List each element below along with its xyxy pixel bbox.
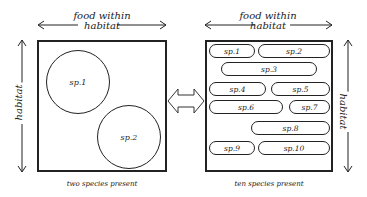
right-habitat-box: sp.1 sp.2 sp.3 sp.4 sp.5 sp.6 sp.7 sp.8 …: [205, 40, 333, 172]
right-habitat-label: habitat: [338, 91, 349, 131]
species-pill: sp.2: [258, 44, 330, 58]
double-arrow-icon: [168, 89, 204, 113]
species-pill: sp.10: [258, 141, 330, 155]
right-food-label-line2: habitat: [228, 20, 308, 31]
species-circle: sp.2: [97, 105, 161, 169]
species-pill: sp.9: [209, 141, 255, 155]
left-caption: two species present: [37, 180, 167, 188]
species-pill: sp.1: [209, 44, 255, 58]
left-habitat-box: sp.1 sp.2: [37, 40, 167, 172]
species-pill: sp.7: [289, 100, 330, 114]
species-pill: sp.8: [251, 121, 330, 135]
species-pill: sp.5: [271, 82, 330, 96]
left-habitat-label: habitat: [13, 82, 24, 122]
species-pill: sp.3: [221, 62, 317, 76]
species-pill: sp.4: [209, 82, 266, 96]
right-caption: ten species present: [205, 180, 333, 188]
species-pill: sp.6: [209, 100, 283, 114]
species-circle: sp.1: [46, 50, 110, 114]
left-food-label-line2: habitat: [62, 20, 142, 31]
